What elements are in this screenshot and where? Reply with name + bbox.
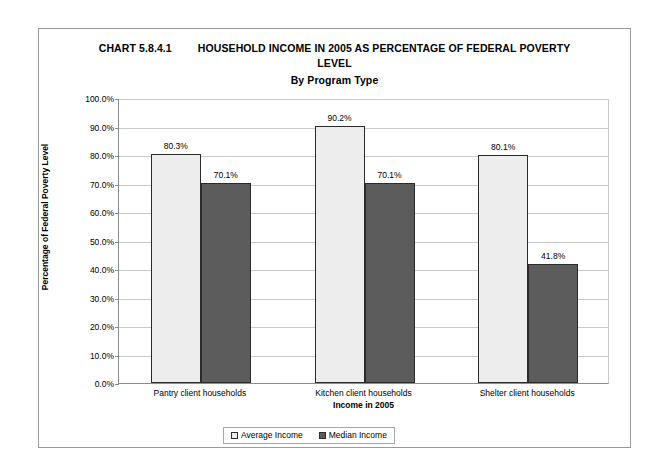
chart-number: CHART 5.8.4.1 xyxy=(99,42,172,54)
y-axis-tick-labels: 0.0%10.0%20.0%30.0%40.0%50.0%60.0%70.0%8… xyxy=(61,99,114,384)
chart-title-line-2: LEVEL xyxy=(39,56,630,71)
bar-average-income[interactable] xyxy=(478,155,528,383)
y-axis-tick-label: 30.0% xyxy=(68,295,114,304)
chart-title-block: CHART 5.8.4.1HOUSEHOLD INCOME IN 2005 AS… xyxy=(39,41,630,88)
bar-average-income[interactable] xyxy=(151,154,201,383)
legend-item[interactable]: Median Income xyxy=(319,431,387,440)
x-axis-category-label: Kitchen client households xyxy=(282,388,446,398)
plot-area: 80.3%70.1%90.2%70.1%80.1%41.8% xyxy=(118,99,609,384)
y-axis-tick xyxy=(115,213,119,214)
bar-group: 90.2%70.1% xyxy=(315,99,415,383)
bar-value-label: 80.3% xyxy=(146,142,206,151)
legend-swatch-icon xyxy=(231,432,238,439)
y-axis-tick-label: 20.0% xyxy=(68,323,114,332)
chart-title-line-1: CHART 5.8.4.1HOUSEHOLD INCOME IN 2005 AS… xyxy=(39,41,630,56)
y-axis-tick xyxy=(115,99,119,100)
y-axis-tick xyxy=(115,327,119,328)
y-axis-tick-label: 0.0% xyxy=(68,380,114,389)
x-axis-category-label: Pantry client households xyxy=(118,388,282,398)
y-axis-tick xyxy=(115,185,119,186)
legend-item-label: Average Income xyxy=(241,431,303,440)
bar-group: 80.3%70.1% xyxy=(151,99,251,383)
bar-median-income[interactable] xyxy=(201,183,251,383)
bar-value-label: 70.1% xyxy=(360,171,420,180)
bar-median-income[interactable] xyxy=(528,264,578,383)
x-axis-category-label: Shelter client households xyxy=(445,388,609,398)
bar-value-label: 90.2% xyxy=(310,114,370,123)
bar-median-income[interactable] xyxy=(365,183,415,383)
bar-value-label: 70.1% xyxy=(196,171,256,180)
y-axis-tick-label: 60.0% xyxy=(68,209,114,218)
y-axis-tick xyxy=(115,384,119,385)
y-axis-tick-label: 100.0% xyxy=(68,95,114,104)
y-axis-tick xyxy=(115,242,119,243)
y-axis-tick xyxy=(115,270,119,271)
chart-subtitle: By Program Type xyxy=(39,73,630,88)
y-axis-tick xyxy=(115,356,119,357)
bar-average-income[interactable] xyxy=(315,126,365,383)
bar-group: 80.1%41.8% xyxy=(478,99,578,383)
y-axis-tick-label: 70.0% xyxy=(68,181,114,190)
y-axis-tick-label: 80.0% xyxy=(68,152,114,161)
y-axis-tick-label: 10.0% xyxy=(68,352,114,361)
y-axis-tick xyxy=(115,156,119,157)
y-axis-tick xyxy=(115,128,119,129)
y-axis-tick-label: 90.0% xyxy=(68,124,114,133)
bar-value-label: 80.1% xyxy=(473,143,533,152)
bar-value-label: 41.8% xyxy=(523,252,583,261)
chart-legend: Average IncomeMedian Income xyxy=(223,427,395,444)
y-axis-tick xyxy=(115,299,119,300)
legend-item-label: Median Income xyxy=(329,431,387,440)
y-axis-title: Percentage of Federal Poverty Level xyxy=(40,0,50,452)
chart-title-text: HOUSEHOLD INCOME IN 2005 AS PERCENTAGE O… xyxy=(198,42,570,54)
y-axis-tick-label: 40.0% xyxy=(68,266,114,275)
y-axis-tick-label: 50.0% xyxy=(68,238,114,247)
legend-swatch-icon xyxy=(319,432,326,439)
chart-frame: CHART 5.8.4.1HOUSEHOLD INCOME IN 2005 AS… xyxy=(38,28,631,448)
x-axis-title: Income in 2005 xyxy=(118,400,609,410)
legend-item[interactable]: Average Income xyxy=(231,431,303,440)
